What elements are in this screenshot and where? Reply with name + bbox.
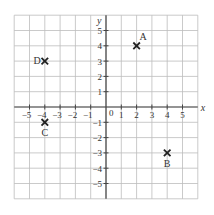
- y-tick-label: 3: [98, 57, 103, 67]
- x-tick-label: −1: [83, 110, 93, 120]
- plotted-points: ABCD: [34, 31, 171, 169]
- tick-labels: −5−4−3−2−11234554321−1−2−3−4−50xy: [22, 15, 206, 189]
- point-c: C: [41, 119, 48, 138]
- point-label: D: [34, 55, 41, 66]
- grid-svg: −5−4−3−2−11234554321−1−2−3−4−50xy ABCD: [0, 0, 214, 215]
- x-tick-label: −3: [52, 110, 62, 120]
- axes: [14, 15, 198, 199]
- y-tick-label: −5: [92, 179, 102, 189]
- y-tick-label: −2: [92, 133, 102, 143]
- x-tick-label: −2: [68, 110, 78, 120]
- y-tick-label: −3: [92, 148, 102, 158]
- x-tick-label: 3: [150, 110, 155, 120]
- coordinate-grid-diagram: −5−4−3−2−11234554321−1−2−3−4−50xy ABCD: [0, 0, 214, 215]
- x-tick-label: 4: [165, 110, 170, 120]
- x-tick-label: 2: [134, 110, 139, 120]
- y-tick-label: 4: [98, 41, 103, 51]
- point-a: A: [133, 31, 147, 49]
- y-tick-label: 1: [98, 87, 103, 97]
- point-label: A: [140, 31, 148, 42]
- point-label: C: [41, 127, 48, 138]
- x-axis-label: x: [200, 102, 206, 113]
- y-tick-label: 2: [98, 72, 103, 82]
- y-tick-label: −4: [92, 164, 102, 174]
- point-label: B: [164, 158, 171, 169]
- point-d: D: [34, 55, 49, 66]
- y-axis-label: y: [96, 15, 102, 26]
- y-tick-label: −1: [92, 118, 102, 128]
- x-tick-label: 1: [119, 110, 124, 120]
- point-b: B: [164, 150, 171, 169]
- x-tick-label: −5: [22, 110, 32, 120]
- y-tick-label: 5: [98, 26, 103, 36]
- x-tick-label: 5: [180, 110, 185, 120]
- origin-label: 0: [109, 108, 114, 118]
